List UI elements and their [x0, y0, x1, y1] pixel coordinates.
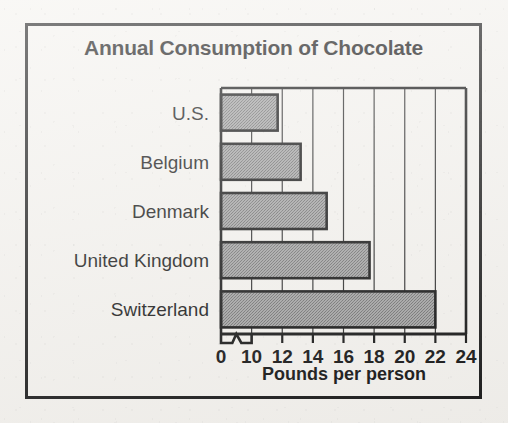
x-axis-title: Pounds per person	[221, 364, 467, 385]
category-label: United Kingdom	[74, 250, 209, 271]
bar	[221, 144, 301, 180]
bar	[221, 291, 435, 327]
category-label: Belgium	[140, 152, 209, 173]
category-label: U.S.	[172, 103, 209, 124]
category-label: Switzerland	[111, 299, 209, 320]
category-labels-group: U.S.BelgiumDenmarkUnited KingdomSwitzerl…	[74, 103, 210, 321]
category-label: Denmark	[132, 201, 210, 222]
bar	[221, 242, 370, 278]
bar	[221, 193, 327, 229]
bar-chart-plot: U.S.BelgiumDenmarkUnited KingdomSwitzerl…	[0, 0, 508, 423]
bar	[221, 95, 278, 131]
bars-group	[221, 95, 435, 328]
